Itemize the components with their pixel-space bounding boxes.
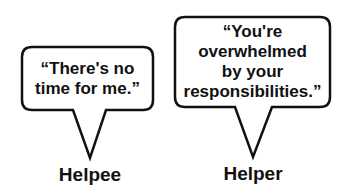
helper-quote: “You're overwhelmed by your responsibili…	[175, 22, 330, 102]
helpee-label: Helpee	[40, 164, 140, 186]
helper-label: Helper	[203, 163, 303, 185]
helpee-quote: “There's no time for me.”	[22, 59, 153, 99]
